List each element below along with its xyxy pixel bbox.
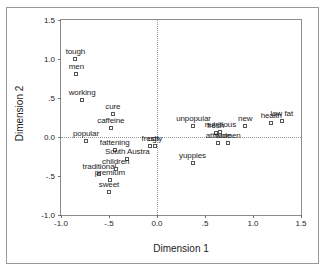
x-axis-tick xyxy=(157,215,158,218)
data-point xyxy=(280,119,284,123)
x-axis-tick-label: -.5 xyxy=(104,219,113,228)
data-point-label: nutritious xyxy=(205,120,236,129)
figure: -1.0-.50.0.51.01.5-1.0-.50.0.51.01.5toug… xyxy=(0,0,326,271)
data-point-label: new xyxy=(238,114,252,123)
x-axis-tick-label: -1.0 xyxy=(54,219,68,228)
y-axis-tick-label: -.5 xyxy=(46,172,55,181)
y-axis-tick-label: 0.0 xyxy=(44,133,55,142)
x-axis-tick xyxy=(61,215,62,218)
data-point xyxy=(191,161,195,165)
data-point xyxy=(226,141,230,145)
x-axis-tick-label: .5 xyxy=(202,219,209,228)
reference-line-vertical xyxy=(157,20,158,215)
y-axis-tick-label: 1.5 xyxy=(44,16,55,25)
data-point-label: sweet xyxy=(99,180,119,189)
data-point xyxy=(74,72,78,76)
data-point-label: ugly xyxy=(148,134,162,143)
y-axis-tick-label: 1.0 xyxy=(44,55,55,64)
y-axis-tick-label: .5 xyxy=(48,94,55,103)
data-point xyxy=(216,141,220,145)
data-point-label: popular xyxy=(73,129,99,138)
x-axis-title: Dimension 1 xyxy=(60,243,302,254)
data-point-label: low fat xyxy=(271,109,293,118)
y-axis-tick xyxy=(58,176,61,177)
data-point-label: working xyxy=(69,88,96,97)
data-point-label: caffeine xyxy=(97,116,124,125)
data-point-label: yuppies xyxy=(179,151,206,160)
data-point-label: children xyxy=(102,157,129,166)
data-point xyxy=(80,98,84,102)
x-axis-tick-label: 1.5 xyxy=(295,219,306,228)
x-axis-tick-label: 0.0 xyxy=(151,219,162,228)
data-point xyxy=(148,144,152,148)
data-point xyxy=(84,139,88,143)
plot-frame: -1.0-.50.0.51.01.5-1.0-.50.0.51.01.5toug… xyxy=(60,19,302,216)
data-point-label: premium xyxy=(95,168,125,177)
x-axis-tick xyxy=(301,215,302,218)
data-point xyxy=(73,57,77,61)
data-point-label: women xyxy=(215,131,240,140)
data-point xyxy=(269,121,273,125)
data-point-label: tough xyxy=(66,47,86,56)
y-axis-tick xyxy=(58,20,61,21)
y-axis-tick xyxy=(58,215,61,216)
data-point xyxy=(191,124,195,128)
data-point-label: cure xyxy=(105,102,120,111)
y-axis-tick xyxy=(58,137,61,138)
data-point xyxy=(153,144,157,148)
y-axis-tick xyxy=(58,98,61,99)
y-axis-title: Dimension 2 xyxy=(14,59,25,169)
y-axis-tick xyxy=(58,59,61,60)
data-point-label: South Austra xyxy=(105,147,150,156)
x-axis-tick-label: 1.0 xyxy=(247,219,258,228)
x-axis-tick xyxy=(109,215,110,218)
data-point xyxy=(107,190,111,194)
data-point-label: men xyxy=(69,62,84,71)
x-axis-tick xyxy=(205,215,206,218)
data-point xyxy=(243,124,247,128)
x-axis-tick xyxy=(253,215,254,218)
plot-data-area: -1.0-.50.0.51.01.5-1.0-.50.0.51.01.5toug… xyxy=(61,20,301,215)
data-point xyxy=(109,126,113,130)
y-axis-tick-label: -1.0 xyxy=(41,211,55,220)
